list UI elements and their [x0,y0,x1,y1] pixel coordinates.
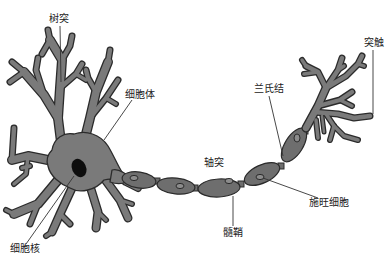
schwann-nucleus [176,183,184,188]
leader-node-of-ranvier [269,96,283,156]
dendrites [6,30,138,236]
schwann-nucleus [130,175,138,180]
label-synapse: 突触 [364,36,384,48]
label-myelin-sheath: 髓鞘 [223,226,243,238]
label-cell-body: 细胞体 [125,88,155,100]
schwann-nucleus [225,178,233,183]
label-axon: 轴突 [204,156,224,168]
myelin-segment [241,158,283,190]
label-nucleus: 细胞核 [10,242,40,254]
myelin-segment [121,170,157,191]
myelin-segment [198,178,241,198]
label-node-of-ranvier: 兰氏结 [254,82,284,94]
leader-schwann-cell [263,178,318,198]
schwann-nucleus [294,134,300,142]
label-dendrite: 树突 [49,12,69,24]
neuron-diagram: 树突 细胞体 细胞核 轴突 髓鞘 施旺细胞 兰氏结 突触 [0,0,392,259]
schwann-nucleus [256,174,264,179]
label-schwann-cell: 施旺细胞 [309,196,349,208]
axon-terminals [302,56,370,140]
